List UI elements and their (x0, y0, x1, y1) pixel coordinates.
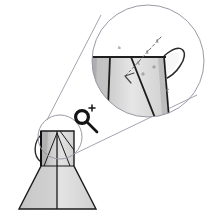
jug-zoom-figure (0, 0, 208, 220)
illustration-canvas (0, 0, 208, 220)
